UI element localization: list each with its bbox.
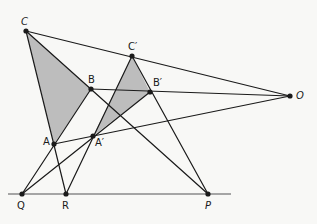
triangle-a-primeb-primec-prime xyxy=(93,56,150,136)
label-a-prime: A′ xyxy=(95,138,104,148)
line-c2-p xyxy=(132,56,208,194)
line-a-o xyxy=(54,96,290,144)
point-b-dot xyxy=(88,86,93,91)
point-p-dot xyxy=(205,191,210,196)
diagram-canvas xyxy=(0,0,317,224)
point-c-dot xyxy=(23,28,28,33)
label-q: Q xyxy=(17,201,25,211)
point-q-dot xyxy=(19,191,24,196)
point-o-dot xyxy=(287,93,292,98)
label-c: C xyxy=(21,17,28,27)
point-a-dot xyxy=(51,141,56,146)
desargues-diagram: C B A C′ B′ A′ O Q R P xyxy=(0,0,317,224)
label-b: B xyxy=(88,75,95,85)
point-r-dot xyxy=(63,191,68,196)
label-p: P xyxy=(205,201,211,211)
label-b-prime: B′ xyxy=(153,78,162,88)
line-b2-q xyxy=(22,92,150,194)
label-o: O xyxy=(296,91,304,101)
point-c2-dot xyxy=(129,53,134,58)
triangle-abc xyxy=(26,31,91,144)
label-a: A xyxy=(43,137,50,147)
label-c-prime: C′ xyxy=(128,42,137,52)
label-r: R xyxy=(62,201,69,211)
point-b2-dot xyxy=(147,89,152,94)
